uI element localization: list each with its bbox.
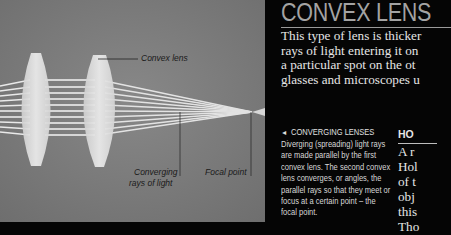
label-converging-line1: Converging (134, 167, 177, 178)
sidebar-line: Tho (398, 220, 419, 235)
left-arrow-icon: ◄ (281, 129, 287, 136)
sidebar-line: of t (398, 175, 419, 190)
intro-line: rays of light entering it on (281, 44, 451, 59)
intro-paragraph: This type of lens is thicker rays of lig… (281, 29, 451, 87)
caption-heading: ◄CONVERGING LENSES (281, 128, 374, 137)
caption-line: lens converges, or angles, the (281, 173, 390, 184)
sidebar-body: A r Hol of t obj this Tho (398, 145, 419, 234)
caption-body: Diverging (spreading) light rays are mad… (281, 139, 390, 219)
sidebar-heading: HO (398, 128, 414, 140)
caption-line: focus at a certain point – the (281, 196, 390, 207)
label-focal-point: Focal point (205, 167, 247, 178)
sidebar-line: A r (398, 145, 419, 160)
sidebar-line: obj (398, 190, 419, 205)
caption-heading-text: CONVERGING LENSES (291, 128, 374, 137)
lens-photo: Convex lens Converging rays of light Foc… (0, 0, 265, 222)
intro-line: glasses and microscopes u (281, 73, 451, 88)
intro-line: This type of lens is thicker (281, 29, 451, 44)
label-converging-line2: rays of light (129, 178, 172, 189)
page-title: CONVEX LENS (281, 0, 431, 27)
caption-line: parallel rays so that they meet or (281, 185, 390, 196)
caption-line: are made parallel by the first (281, 150, 390, 161)
sidebar-line: Hol (398, 160, 419, 175)
caption-line: convex lens. The second convex (281, 162, 390, 173)
caption-line: Diverging (spreading) light rays (281, 139, 390, 150)
caption-line: focal point. (281, 207, 390, 218)
intro-line: a particular spot on the ot (281, 58, 451, 73)
label-convex-lens: Convex lens (141, 53, 188, 64)
sidebar-line: this (398, 205, 419, 220)
